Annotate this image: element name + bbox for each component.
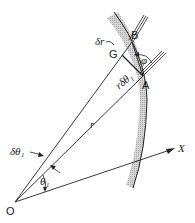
label-point-g: G — [109, 48, 118, 60]
label-arc-length: rδθ₁ — [113, 70, 135, 91]
delta-r-leader — [106, 41, 114, 45]
label-x-axis: X — [177, 142, 186, 154]
label-phi: φ — [141, 54, 147, 66]
x-axis-line — [15, 150, 170, 202]
label-theta: θ₁ — [40, 175, 49, 187]
radius-line-OB — [15, 42, 132, 202]
label-point-b: B — [131, 29, 138, 41]
surface-shading — [107, 12, 147, 188]
radius-line-OA — [15, 76, 143, 202]
polar-element-diagram: O X A B G r rδθ₁ δr δθ₁ θ₁ φ — [0, 0, 195, 223]
delta-theta-arrow-1 — [38, 152, 44, 157]
label-radius: r — [90, 118, 95, 130]
label-delta-theta: δθ₁ — [10, 145, 25, 157]
label-origin: O — [6, 205, 15, 217]
label-delta-r: δr — [95, 35, 105, 47]
x-axis-arrowhead — [166, 148, 175, 154]
label-point-a: A — [142, 79, 150, 91]
